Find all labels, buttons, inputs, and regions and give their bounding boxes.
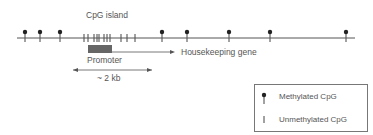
legend-box: Methylated CpG Unmethylated CpG [254,84,368,132]
length-arrow-right-head [147,68,152,72]
promoter-label: Promoter [87,55,122,65]
methylated-cpg-icon [185,30,189,34]
methylated-cpg-icon [268,30,272,34]
methylated-cpg-icon [160,30,164,34]
length-arrow-left-head [73,68,78,72]
housekeeping-gene-label: Housekeeping gene [181,47,257,57]
methylated-cpg-icon [58,30,62,34]
cpg-island-label: CpG island [86,10,128,20]
methylated-cpg-icon [344,30,348,34]
methylated-cpg-icon-head [262,93,266,97]
legend-methylated-label: Methylated CpG [279,92,337,101]
gene-arrow-head [170,50,175,54]
methylated-cpg-icon [23,30,27,34]
length-label: ~ 2 kb [97,73,120,83]
promoter-box [88,45,112,53]
methylated-cpg-icon [38,30,42,34]
legend-unmethylated-label: Unmethylated CpG [279,115,347,124]
methylated-cpg-icon [227,30,231,34]
